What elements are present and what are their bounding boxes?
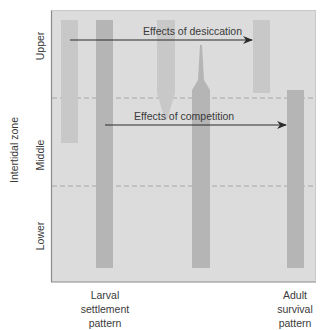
y-axis-title: Intertidal zone: [8, 117, 20, 183]
x-label-line: survival: [255, 302, 327, 316]
x-label-adult-survival: Adult survival pattern: [255, 288, 327, 330]
x-label-line: Adult: [255, 288, 327, 302]
species-a-adult-bar: [253, 20, 270, 93]
x-label-larval-settlement: Larval settlement pattern: [65, 288, 145, 330]
x-label-line: pattern: [255, 316, 327, 330]
desiccation-arrow-label: Effects of desiccation: [143, 25, 242, 37]
species-b-adult-bar: [287, 90, 304, 268]
zone-label-middle: Middle: [34, 139, 46, 170]
x-label-line: pattern: [65, 316, 145, 330]
species-b-larval-bar: [96, 20, 113, 268]
zone-label-lower: Lower: [34, 221, 46, 250]
species-a-larval-bar: [61, 20, 78, 143]
x-label-line: settlement: [65, 302, 145, 316]
zone-label-upper: Upper: [34, 31, 46, 60]
competition-arrow-label: Effects of competition: [134, 110, 234, 122]
intertidal-zonation-diagram: Effects of desiccation Effects of compet…: [0, 0, 327, 330]
plot-area: [51, 10, 316, 282]
x-label-line: Larval: [65, 288, 145, 302]
